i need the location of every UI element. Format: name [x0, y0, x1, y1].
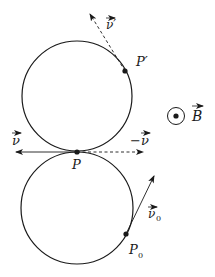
label-b: B [191, 106, 203, 124]
point-p0-dot [123, 231, 128, 236]
label-p0: P 0 [128, 242, 143, 260]
magnetic-field-out-of-page-icon [168, 108, 185, 125]
svg-text:ν′: ν′ [106, 18, 116, 32]
label-minus-v: −ν [130, 133, 150, 148]
point-p-prime-dot [122, 68, 127, 73]
label-v-prime: ν′ [106, 18, 116, 32]
svg-text:P: P [128, 242, 138, 257]
label-v: ν [12, 133, 21, 148]
svg-text:ν: ν [148, 207, 155, 221]
svg-text:B: B [191, 108, 202, 124]
label-v0: ν 0 [148, 207, 161, 223]
svg-text:0: 0 [138, 251, 143, 260]
diagram-canvas: ν −ν ν′ ν 0 P P′ P 0 B [0, 0, 215, 277]
label-p: P [71, 157, 81, 172]
svg-text:0: 0 [156, 214, 161, 223]
upper-orbit-circle [22, 41, 132, 151]
v0-arrow [126, 176, 154, 234]
label-p-prime: P′ [135, 54, 148, 69]
point-p-dot [74, 149, 79, 154]
svg-text:ν: ν [12, 133, 20, 148]
svg-text:−ν: −ν [130, 133, 149, 148]
